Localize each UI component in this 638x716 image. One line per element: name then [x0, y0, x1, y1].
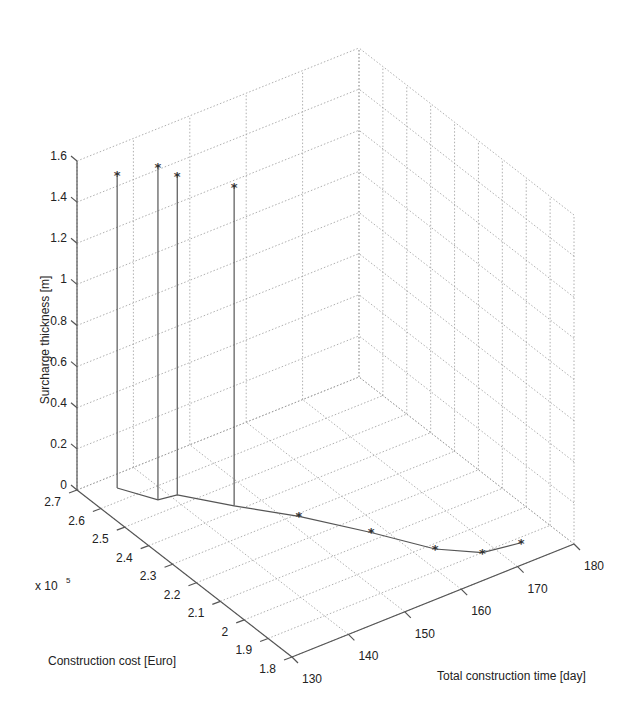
z-tick-label: 1.4: [50, 190, 67, 204]
star-marker: *: [518, 536, 525, 551]
cost-tick: [165, 564, 173, 567]
z-tick-label: 0: [60, 478, 67, 492]
wall-grid-time-horizontal: [77, 130, 359, 243]
wall-grid-cost-horizontal: [359, 213, 574, 380]
time-tick-label: 170: [528, 582, 548, 596]
z-tick-label: 0.4: [50, 396, 67, 410]
cost-tick: [260, 638, 268, 641]
time-tick: [574, 544, 580, 550]
z-tick-label: 1.6: [50, 149, 67, 163]
wall-grid-cost-horizontal: [359, 336, 574, 503]
time-tick: [518, 567, 524, 573]
cost-tick-label: 2.5: [92, 532, 109, 546]
cost-axis: [77, 490, 292, 657]
wall-grid-cost-horizontal: [359, 254, 574, 421]
z-tick-label: 1.2: [50, 231, 67, 245]
star-marker: *: [296, 509, 303, 524]
grid-lines: [77, 48, 574, 657]
cost-tick-label: 2.7: [44, 495, 61, 509]
wall-grid-time-horizontal: [77, 171, 359, 284]
z-tick: [71, 279, 77, 284]
y-axis-title: Construction cost [Euro]: [48, 654, 176, 668]
cost-tick-label: 1.9: [235, 643, 252, 657]
cost-tick-label: 2.6: [68, 514, 85, 528]
time-tick-label: 180: [584, 559, 604, 573]
z-tick: [71, 321, 77, 326]
data-series: *********: [114, 160, 525, 561]
cost-tick-label: 2.3: [140, 569, 157, 583]
wall-grid-time-horizontal: [77, 89, 359, 202]
star-marker: *: [155, 160, 162, 175]
cost-tick-label: 2.2: [164, 588, 181, 602]
time-tick-label: 130: [302, 672, 322, 686]
z-tick: [71, 403, 77, 408]
cost-tick: [284, 657, 292, 660]
floor-grid-time: [133, 467, 348, 634]
cost-tick: [93, 509, 101, 512]
star-marker: *: [479, 546, 486, 561]
wall-grid-time-horizontal: [77, 48, 359, 161]
cost-tick: [69, 490, 77, 493]
cost-tick: [117, 527, 125, 530]
time-tick: [461, 589, 467, 595]
z-tick: [71, 362, 77, 367]
wall-grid-time-horizontal: [77, 213, 359, 326]
time-tick-label: 160: [471, 604, 491, 618]
time-tick: [292, 657, 298, 663]
star-marker: *: [368, 525, 375, 540]
floor-grid-cost: [173, 451, 455, 564]
cost-tick: [236, 620, 244, 623]
time-tick: [405, 612, 411, 618]
wall-grid-cost-horizontal: [359, 377, 574, 544]
z-tick: [71, 156, 77, 161]
wall-grid-cost-horizontal: [359, 130, 574, 297]
wall-grid-time-horizontal: [77, 254, 359, 367]
floor-grid-cost: [244, 507, 526, 620]
z-tick-label: 0.8: [50, 314, 67, 328]
floor-grid-time: [246, 422, 461, 589]
cost-tick: [141, 546, 149, 549]
floor-grid-cost: [149, 433, 431, 546]
z-tick: [71, 238, 77, 243]
y-multiplier: x 10 5: [35, 576, 71, 593]
cost-tick-label: 1.8: [259, 662, 276, 676]
chart-figure: 00.20.40.60.811.21.41.61.81.922.12.22.32…: [0, 0, 638, 716]
time-tick: [348, 634, 354, 640]
floor-grid-time: [303, 400, 518, 567]
z-tick: [71, 485, 77, 490]
axes: [69, 156, 580, 663]
floor-grid-cost: [196, 470, 478, 583]
wall-grid-cost-horizontal: [359, 295, 574, 462]
tick-labels: 00.20.40.60.811.21.41.61.81.922.12.22.32…: [44, 149, 604, 686]
star-marker: *: [174, 169, 181, 184]
multiplier-exponent: 5: [66, 576, 71, 585]
x-axis-title: Total construction time [day]: [437, 669, 586, 683]
time-tick-label: 150: [415, 627, 435, 641]
cost-tick-label: 2: [222, 625, 229, 639]
wall-grid-cost-horizontal: [359, 171, 574, 338]
z-tick-label: 0.2: [50, 437, 67, 451]
floor-grid-cost: [125, 414, 407, 527]
wall-grid-cost-horizontal: [359, 89, 574, 256]
cost-tick: [212, 601, 220, 604]
z-tick-label: 1: [60, 272, 67, 286]
multiplier-base: x 10: [35, 579, 58, 593]
z-axis-title: Surcharge thickness [m]: [38, 276, 52, 405]
floor-curve: [117, 488, 521, 553]
wall-grid-cost-horizontal: [359, 48, 574, 215]
floor-grid-cost: [220, 488, 502, 601]
wall-grid-time-horizontal: [77, 295, 359, 408]
cost-tick-label: 2.4: [116, 551, 133, 565]
wall-grid-time-horizontal: [77, 377, 359, 490]
star-marker: *: [114, 168, 121, 183]
time-tick-label: 140: [358, 649, 378, 663]
floor-grid-cost: [101, 396, 383, 509]
z-tick: [71, 444, 77, 449]
cost-tick: [188, 583, 196, 586]
z-tick-label: 0.6: [50, 355, 67, 369]
star-marker: *: [432, 542, 439, 557]
z-tick: [71, 197, 77, 202]
star-marker: *: [231, 180, 238, 195]
wall-grid-time-horizontal: [77, 336, 359, 449]
cost-tick-label: 2.1: [188, 606, 205, 620]
